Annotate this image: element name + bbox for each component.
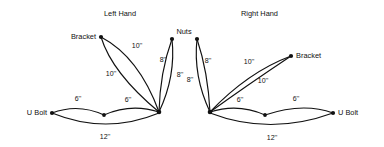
measure-bracket-right-outer: 10'' <box>244 58 254 65</box>
edge-ubolt-right-span <box>210 113 333 125</box>
left-hand-group: Left Hand Bracket Nuts U Bolt 10'' 10'' … <box>27 9 192 140</box>
measure-ubolt-right-far: 6'' <box>293 95 300 102</box>
edge-ubolt-left-far <box>52 108 104 115</box>
label-bracket-right: Bracket <box>296 51 321 60</box>
edge-ubolt-left-near <box>104 108 159 115</box>
measure-nuts-left-outer: 8'' <box>160 56 167 63</box>
edge-nuts-right-inner <box>196 39 210 112</box>
measure-bracket-right-inner: 10'' <box>258 77 268 84</box>
node-hub-right <box>208 110 213 115</box>
label-ubolt-right: U Bolt <box>338 108 358 117</box>
measure-ubolt-left-far: 6'' <box>75 95 82 102</box>
node-bracket-left <box>99 35 103 39</box>
measure-bracket-left-inner: 10'' <box>106 70 116 77</box>
node-nuts-right <box>195 37 199 41</box>
measure-nuts-right-outer: 8'' <box>205 57 212 64</box>
edge-ubolt-right-far <box>265 108 333 115</box>
node-ubolt-left-mid <box>102 113 106 117</box>
measure-bracket-left-outer: 10'' <box>132 42 142 49</box>
diagram-canvas: Left Hand Bracket Nuts U Bolt 10'' 10'' … <box>0 0 384 147</box>
edge-ubolt-right-near <box>210 108 265 115</box>
node-ubolt-right-mid <box>263 113 267 117</box>
label-ubolt-left: U Bolt <box>27 108 47 117</box>
measure-ubolt-left-near: 6'' <box>125 96 132 103</box>
node-bracket-right <box>289 54 293 58</box>
measure-ubolt-right-span: 12'' <box>267 134 277 141</box>
assembly-diagram: Left Hand Bracket Nuts U Bolt 10'' 10'' … <box>0 0 384 147</box>
label-bracket-left: Bracket <box>71 32 96 41</box>
measure-nuts-right-inner: 8'' <box>187 76 194 83</box>
label-nuts: Nuts <box>176 27 192 36</box>
right-hand-group: Right Hand Bracket U Bolt 8'' 8'' 10'' 1… <box>187 9 358 141</box>
node-hub-left <box>157 110 162 115</box>
measure-ubolt-right-near: 6'' <box>237 96 244 103</box>
edge-nuts-right-outer <box>197 39 210 112</box>
left-hand-title: Left Hand <box>104 9 136 18</box>
measure-nuts-left-inner: 8'' <box>177 71 184 78</box>
measure-ubolt-left-span: 12'' <box>100 133 110 140</box>
right-hand-title: Right Hand <box>241 9 278 18</box>
node-ubolt-right <box>331 111 335 115</box>
node-ubolt-left <box>50 111 54 115</box>
edge-nuts-left-outer <box>159 39 172 112</box>
edge-nuts-left-inner <box>159 39 173 112</box>
node-nuts-left <box>170 37 174 41</box>
